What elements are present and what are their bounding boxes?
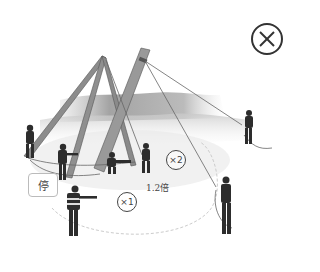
worker-rope-right	[221, 177, 231, 235]
distance-label: 1.2倍	[146, 181, 169, 194]
worker-rope-far-right	[245, 110, 253, 144]
multiplier-badge-x1: ×1	[117, 192, 137, 212]
close-icon[interactable]	[250, 22, 284, 56]
multiplier-badge-x2: ×2	[166, 150, 186, 170]
worker-signaler	[67, 186, 97, 237]
stop-sign-label: 停	[28, 173, 58, 197]
